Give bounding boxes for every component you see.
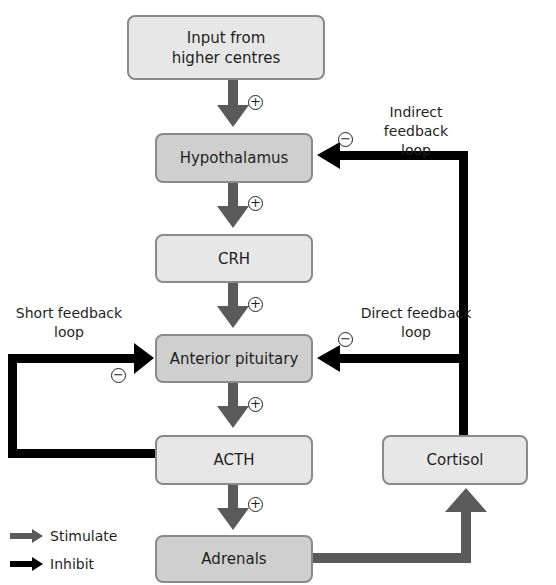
node-hypothalamus-label: Hypothalamus (180, 148, 289, 168)
node-adrenals-label: Adrenals (201, 549, 266, 569)
plus-sign-icon: + (248, 95, 263, 110)
indirect-feedback-label: Indirect feedback loop (356, 103, 476, 160)
node-input-line1: Input from (187, 28, 266, 48)
legend-stimulate: Stimulate (10, 528, 117, 544)
hpa-axis-diagram: Input from higher centres Hypothalamus C… (0, 0, 556, 585)
plus-sign-icon: + (248, 297, 263, 312)
direct-feedback-label: Direct feedback loop (356, 304, 476, 342)
node-acth-label: ACTH (214, 450, 255, 470)
node-input-higher-centres: Input from higher centres (127, 15, 325, 80)
node-hypothalamus: Hypothalamus (155, 133, 313, 183)
minus-sign-icon: − (111, 368, 126, 383)
legend-inhibit: Inhibit (10, 556, 94, 572)
node-cortisol: Cortisol (382, 435, 528, 485)
node-anterior-pituitary: Anterior pituitary (155, 334, 313, 383)
node-anterior-pituitary-label: Anterior pituitary (170, 349, 299, 369)
node-input-line2: higher centres (172, 48, 281, 68)
inhibit-arrow-icon (10, 557, 44, 571)
node-crh: CRH (155, 234, 313, 283)
plus-sign-icon: + (248, 497, 263, 512)
connector-layer (0, 0, 556, 585)
minus-sign-icon: − (338, 332, 353, 347)
minus-sign-icon: − (338, 132, 353, 147)
node-crh-label: CRH (218, 249, 250, 269)
plus-sign-icon: + (248, 397, 263, 412)
short-feedback-label: Short feedback loop (14, 304, 124, 342)
stimulate-arrow-icon (10, 529, 44, 543)
node-cortisol-label: Cortisol (426, 450, 483, 470)
plus-sign-icon: + (248, 196, 263, 211)
node-adrenals: Adrenals (155, 535, 313, 583)
node-acth: ACTH (155, 435, 313, 485)
